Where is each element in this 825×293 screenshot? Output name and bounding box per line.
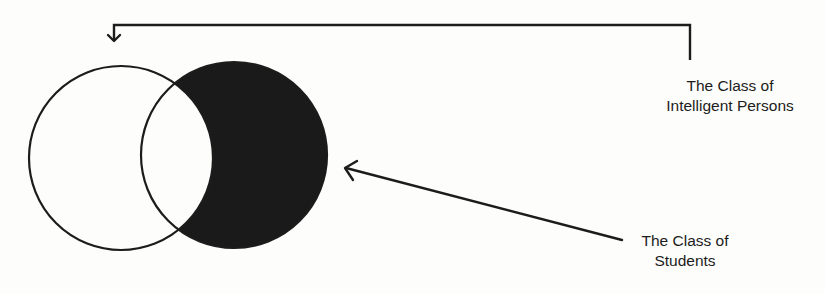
intelligent-persons-connector-line [114,25,690,60]
students-label-line1: The Class of [630,231,740,251]
students-connector-line [346,168,622,240]
intelligent-persons-circle [29,66,213,250]
students-label-line2: Students [630,251,740,271]
students-label: The Class of Students [630,231,740,271]
intelligent-label-line2: Intelligent Persons [618,96,825,116]
intelligent-persons-label: The Class of Intelligent Persons [618,76,825,116]
intelligent-label-line1: The Class of [618,76,825,96]
